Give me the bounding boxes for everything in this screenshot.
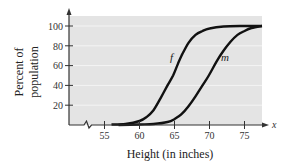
y-tick-label-20: 20 [53,100,63,111]
x-tick-label-70: 70 [205,130,215,141]
y-axis-arrow-icon [67,8,72,15]
x-axis-variable: x [271,119,277,130]
y-axis-title-line2: population [27,46,41,97]
x-tick-label-55: 55 [100,130,110,141]
x-axis-arrow-icon [262,123,269,128]
x-tick-label-60: 60 [135,130,145,141]
chart: x 100 80 60 40 20 55 60 65 70 75 Height … [0,0,291,165]
x-axis-title: Height (in inches) [127,147,214,161]
y-axis-title-line1: Percent of [12,48,26,97]
y-tick-label-60: 60 [53,60,63,71]
curve-label-m: m [221,51,229,63]
plot-area [69,16,262,125]
y-tick-label-80: 80 [53,41,63,52]
x-tick-label-65: 65 [170,130,180,141]
y-tick-label-40: 40 [53,80,63,91]
y-tick-label-100: 100 [48,21,63,32]
x-tick-label-75: 75 [240,130,250,141]
